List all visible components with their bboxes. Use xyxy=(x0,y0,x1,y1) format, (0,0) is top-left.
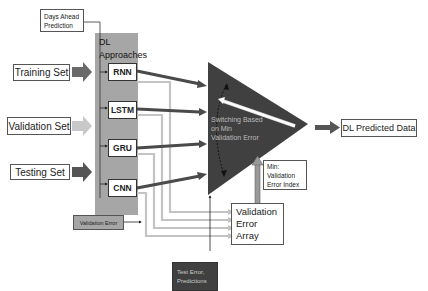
predicted-data-box: DL Predicted Data xyxy=(341,119,417,137)
lstm-box: LSTM xyxy=(108,101,137,119)
testing-set-box: Testing Set xyxy=(10,164,70,180)
model-output-arrows xyxy=(137,71,200,188)
validation-error-box: Validation Error xyxy=(73,215,124,230)
training-set-box: Training Set xyxy=(13,64,70,81)
gru-box: GRU xyxy=(108,139,137,157)
days-ahead-box: Days Ahead Prediction xyxy=(40,9,84,32)
test-error-box: Test Error, Predictions xyxy=(172,262,218,291)
min-error-index-box: Min: Validation Error Index xyxy=(263,160,307,190)
switch-label: Switching Based on Min Validation Error xyxy=(211,115,263,142)
connector-layer xyxy=(0,0,428,291)
validation-error-array-box: Validation Error Array xyxy=(231,203,284,245)
input-arrows xyxy=(72,62,92,182)
rnn-box: RNN xyxy=(108,63,137,81)
validation-set-box: Validation Set xyxy=(7,117,71,135)
cnn-box: CNN xyxy=(108,179,137,197)
